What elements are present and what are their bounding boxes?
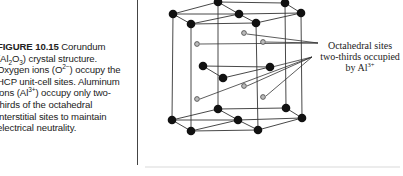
octahedral-sites-label: Octahedral sites two-thirds occupied by … (315, 40, 403, 73)
corundum-crystal-structure-diagram (0, 0, 403, 176)
